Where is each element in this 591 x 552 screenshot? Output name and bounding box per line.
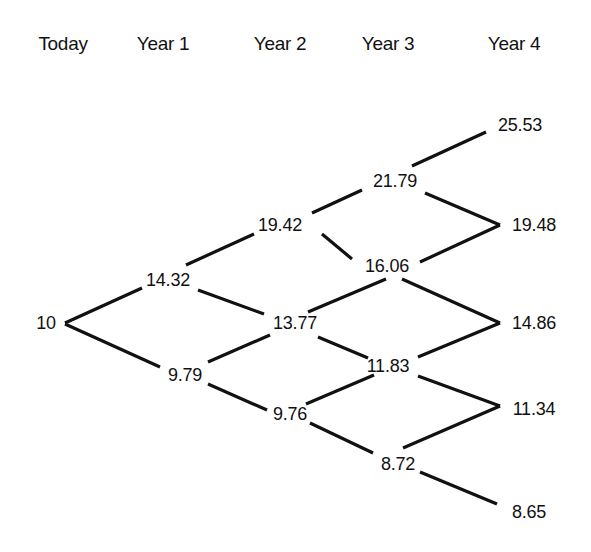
header-year-2: Year 2 [254,33,306,55]
node-year3-udd: 11.83 [367,356,410,377]
header-year-3: Year 3 [362,33,414,55]
edge-9.79-9.76 [208,384,267,410]
node-year3-uuu: 21.79 [373,171,417,192]
node-year1-down: 9.79 [168,365,202,386]
node-year3-ddd: 8.72 [381,454,415,475]
edge-16.06-19.48 [420,225,500,262]
node-year2-dd: 9.76 [273,404,307,425]
edge-21.79-25.53 [412,132,486,166]
header-year-4: Year 4 [488,33,540,55]
edge-13.77-11.83 [318,337,368,358]
edge-8.72-8.65 [420,472,497,504]
edge-19.42-21.79 [312,190,362,213]
edge-14.32-19.42 [186,234,254,265]
node-year4-uddd: 11.34 [513,399,556,420]
node-year2-ud: 13.77 [273,313,317,334]
edge-9.76-11.83 [306,375,374,404]
edge-9.79-13.77 [208,335,270,362]
node-year1-up: 14.32 [146,270,190,291]
edge-13.77-16.06 [308,279,386,312]
tree-edges [0,0,591,552]
edge-8.72-11.34 [403,406,500,448]
node-year2-uu: 19.42 [258,215,302,236]
node-year4-uudd: 14.86 [512,313,556,334]
edge-11.83-11.34 [418,376,500,406]
edge-11.83-14.86 [418,323,500,357]
node-year4-uuuu: 25.53 [498,115,542,136]
edge-10-14.32 [65,288,142,323]
edge-9.76-8.72 [310,423,373,453]
header-year-1: Year 1 [137,33,189,55]
edge-21.79-19.48 [425,193,500,225]
node-year4-uuud: 19.48 [512,215,556,236]
edge-16.06-14.86 [402,279,500,323]
node-year3-uud: 16.06 [365,256,409,277]
edge-10-9.79 [65,324,160,367]
header-today: Today [38,33,87,55]
node-today: 10 [36,313,56,334]
edge-19.42-16.06 [322,234,352,259]
node-year4-dddd: 8.65 [512,502,546,523]
edge-14.32-13.77 [198,290,264,314]
